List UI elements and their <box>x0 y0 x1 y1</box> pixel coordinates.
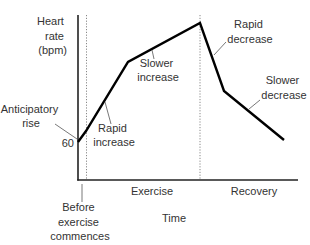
phase-exercise-label: Exercise <box>131 185 173 197</box>
rapid-decrease-label: Rapid decrease <box>227 18 272 45</box>
baseline-tick-label: 60 <box>62 137 74 149</box>
rapid-increase-label: Rapid increase <box>93 122 135 148</box>
rapid-decrease-leader <box>214 42 226 55</box>
heart-rate-diagram: Heart rate (bpm) 60 Anticipatory rise Ra… <box>0 0 310 245</box>
x-axis-label: Time <box>162 212 186 224</box>
anticipatory-rise-label: Anticipatory rise <box>1 103 62 129</box>
phase-before-label: Before exercise commences <box>50 201 110 242</box>
slower-decrease-leader <box>249 100 260 109</box>
slower-increase-label: Slower increase <box>137 57 179 83</box>
slower-decrease-label: Slower decrease <box>261 74 306 101</box>
rapid-increase-leader <box>105 102 111 124</box>
phase-recovery-label: Recovery <box>231 185 278 197</box>
y-axis-label: Heart rate (bpm) <box>37 15 67 56</box>
